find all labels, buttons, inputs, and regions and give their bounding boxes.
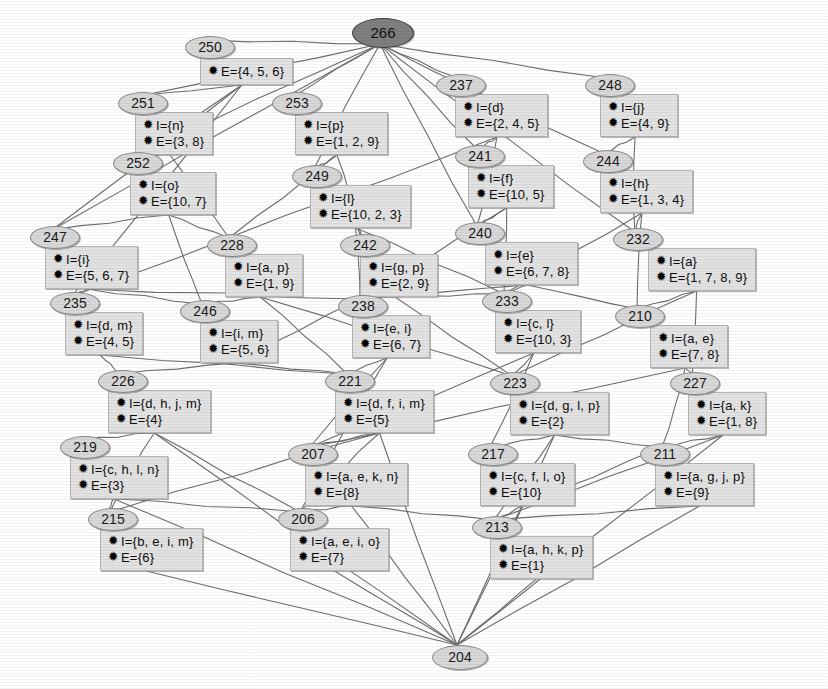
node-id-badge-232[interactable]: 232 xyxy=(613,228,663,251)
extent-label: E={10, 3} xyxy=(516,332,572,347)
concept-box-249[interactable]: ✹I={l}✹E={10, 2, 3} xyxy=(310,185,411,228)
concept-box-215[interactable]: ✹I={b, e, i, m}✹E={6} xyxy=(100,528,203,571)
concept-box-206[interactable]: ✹I={a, e, i, o}✹E={7} xyxy=(290,528,389,571)
node-id-badge-223[interactable]: 223 xyxy=(490,372,540,395)
extent-label: E={1, 9} xyxy=(246,276,294,291)
node-id-badge-221[interactable]: 221 xyxy=(325,370,375,393)
node-id-badge-250[interactable]: 250 xyxy=(185,36,235,59)
node-id-badge-242[interactable]: 242 xyxy=(340,234,390,257)
extent-row: ✹E={10, 5} xyxy=(475,186,545,202)
node-id-badge-246[interactable]: 246 xyxy=(180,300,230,323)
node-id-badge-248[interactable]: 248 xyxy=(585,74,635,97)
concept-box-227[interactable]: ✹I={a, k}✹E={1, 8} xyxy=(688,392,766,435)
node-id-badge-217[interactable]: 217 xyxy=(468,443,518,466)
node-id-badge-213[interactable]: 213 xyxy=(472,516,522,539)
node-id-badge-211[interactable]: 211 xyxy=(640,443,690,466)
concept-box-253[interactable]: ✹I={p}✹E={1, 2, 9} xyxy=(295,112,388,155)
node-id-badge-253[interactable]: 253 xyxy=(272,92,322,115)
concept-box-252[interactable]: ✹I={o}✹E={10, 7} xyxy=(130,172,216,215)
lattice-edge xyxy=(114,499,300,512)
node-id-badge-251[interactable]: 251 xyxy=(118,92,168,115)
extent-row: ✹E={1} xyxy=(497,557,584,573)
extent-label: E={1, 3, 4} xyxy=(621,192,684,207)
node-id-badge-244[interactable]: 244 xyxy=(583,150,633,173)
extent-row: ✹E={2, 9} xyxy=(367,275,429,291)
concept-box-244[interactable]: ✹I={h}✹E={1, 3, 4} xyxy=(600,170,693,213)
node-id-badge-227[interactable]: 227 xyxy=(670,372,720,395)
intent-label: I={l} xyxy=(331,191,355,206)
extent-row: ✹E={2, 4, 5} xyxy=(462,115,539,131)
concept-box-211[interactable]: ✹I={a, g, j, p}✹E={9} xyxy=(655,463,754,506)
concept-box-251[interactable]: ✹I={n}✹E={3, 8} xyxy=(135,112,213,155)
intent-row: ✹I={d, m} xyxy=(72,317,134,333)
node-id-badge-249[interactable]: 249 xyxy=(292,165,342,188)
intent-label: I={e, i} xyxy=(373,321,412,336)
concept-box-235[interactable]: ✹I={d, m}✹E={4, 5} xyxy=(65,312,143,355)
intent-bullet-icon: ✹ xyxy=(137,177,148,193)
node-id-badge-247[interactable]: 247 xyxy=(30,226,80,249)
concept-box-210[interactable]: ✹I={a, e}✹E={7, 8} xyxy=(650,325,728,368)
lattice-edge xyxy=(294,44,380,96)
node-id-badge-210[interactable]: 210 xyxy=(615,305,665,328)
node-id-badge-219[interactable]: 219 xyxy=(60,436,110,459)
intent-label: I={a, e, k, n} xyxy=(326,469,399,484)
concept-box-237[interactable]: ✹I={d}✹E={2, 4, 5} xyxy=(455,94,548,137)
node-id-badge-206[interactable]: 206 xyxy=(278,508,328,531)
concept-box-248[interactable]: ✹I={j}✹E={4, 9} xyxy=(600,94,678,137)
concept-box-232[interactable]: ✹I={a}✹E={1, 7, 8, 9} xyxy=(648,248,756,291)
concept-box-228[interactable]: ✹I={a, p}✹E={1, 9} xyxy=(225,254,303,297)
intent-bullet-icon: ✹ xyxy=(462,99,473,115)
intent-row: ✹I={a, e} xyxy=(657,330,719,346)
intent-row: ✹I={e, i} xyxy=(359,320,421,336)
concept-box-247[interactable]: ✹I={i}✹E={5, 6, 7} xyxy=(45,246,138,289)
concept-box-207[interactable]: ✹I={a, e, k, n}✹E={8} xyxy=(305,463,408,506)
node-id-badge-238[interactable]: 238 xyxy=(338,295,388,318)
extent-row: ✹E={4, 5} xyxy=(72,333,134,349)
concept-box-246[interactable]: ✹I={i, m}✹E={5, 6} xyxy=(200,320,278,363)
intent-row: ✹I={j} xyxy=(607,99,669,115)
node-id-badge-266[interactable]: 266 xyxy=(352,18,414,48)
intent-row: ✹I={d, h, j, m} xyxy=(115,395,202,411)
intent-label: I={c, h, l, n} xyxy=(91,462,159,477)
concept-box-226[interactable]: ✹I={d, h, j, m}✹E={4} xyxy=(108,390,211,433)
extent-bullet-icon: ✹ xyxy=(657,346,668,362)
intent-bullet-icon: ✹ xyxy=(302,117,313,133)
node-id-badge-215[interactable]: 215 xyxy=(88,508,138,531)
extent-bullet-icon: ✹ xyxy=(342,411,353,427)
node-id-badge-233[interactable]: 233 xyxy=(482,290,532,313)
node-id-badge-207[interactable]: 207 xyxy=(288,443,338,466)
node-id-badge-235[interactable]: 235 xyxy=(50,292,100,315)
lattice-edge xyxy=(87,289,360,299)
concept-box-233[interactable]: ✹I={c, l}✹E={10, 3} xyxy=(495,310,581,353)
node-id-badge-228[interactable]: 228 xyxy=(207,234,257,257)
node-id-badge-204[interactable]: 204 xyxy=(432,645,488,670)
node-id-badge-241[interactable]: 241 xyxy=(455,145,505,168)
intent-label: I={c, l} xyxy=(516,316,554,331)
extent-label: E={6, 7, 8} xyxy=(506,264,569,279)
concept-box-217[interactable]: ✹I={c, f, l, o}✹E={10} xyxy=(480,463,575,506)
lattice-edge xyxy=(351,506,457,645)
concept-box-223[interactable]: ✹I={d, g, l, p}✹E={2} xyxy=(510,392,609,435)
extent-bullet-icon: ✹ xyxy=(359,336,370,352)
intent-bullet-icon: ✹ xyxy=(342,395,353,411)
concept-box-221[interactable]: ✹I={d, f, i, m}✹E={5} xyxy=(335,390,434,433)
node-id-badge-226[interactable]: 226 xyxy=(98,370,148,393)
concept-box-238[interactable]: ✹I={e, i}✹E={6, 7} xyxy=(352,315,430,358)
node-id-badge-252[interactable]: 252 xyxy=(113,152,163,175)
extent-label: E={7, 8} xyxy=(671,347,719,362)
concept-box-250[interactable]: ✹E={4, 5, 6} xyxy=(200,58,293,85)
lattice-edge xyxy=(457,579,536,645)
extent-label: E={1, 8} xyxy=(709,414,757,429)
node-id-badge-237[interactable]: 237 xyxy=(436,74,486,97)
extent-label: E={4, 5} xyxy=(86,334,134,349)
extent-row: ✹E={3, 8} xyxy=(142,133,204,149)
concept-box-241[interactable]: ✹I={f}✹E={10, 5} xyxy=(468,165,554,208)
concept-box-242[interactable]: ✹I={g, p}✹E={2, 9} xyxy=(360,254,438,297)
concept-box-213[interactable]: ✹I={a, h, k, p}✹E={1} xyxy=(490,536,593,579)
concept-box-219[interactable]: ✹I={c, h, l, n}✹E={3} xyxy=(70,456,168,499)
intent-row: ✹I={g, p} xyxy=(367,259,429,275)
extent-label: E={9} xyxy=(676,485,709,500)
node-id-badge-240[interactable]: 240 xyxy=(455,222,505,245)
concept-box-240[interactable]: ✹I={e}✹E={6, 7, 8} xyxy=(485,242,578,285)
extent-label: E={3, 8} xyxy=(156,134,204,149)
